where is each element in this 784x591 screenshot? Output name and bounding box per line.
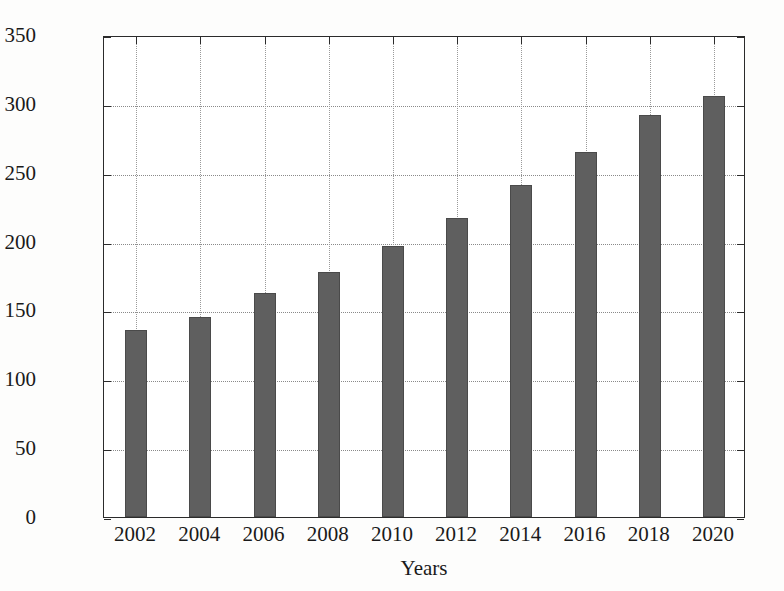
bar-2018[interactable]	[639, 115, 661, 517]
y-tick-label: 300	[0, 94, 36, 115]
bar-2008[interactable]	[318, 272, 340, 517]
y-tick-label: 150	[0, 300, 36, 321]
x-tick-mark	[521, 37, 522, 44]
y-tick-mark	[737, 312, 744, 313]
bar-2002[interactable]	[125, 330, 147, 517]
y-tick-label: 200	[0, 232, 36, 253]
y-tick-mark	[737, 106, 744, 107]
x-tick-mark	[200, 37, 201, 44]
x-tick-mark	[714, 37, 715, 44]
x-tick-mark	[265, 37, 266, 44]
y-tick-mark	[104, 37, 111, 38]
y-tick-label: 350	[0, 25, 36, 46]
bar-2010[interactable]	[382, 246, 404, 517]
plot-area	[103, 36, 745, 518]
bar-2020[interactable]	[703, 96, 725, 517]
y-tick-label: 250	[0, 163, 36, 184]
x-axis-title: Years	[103, 556, 745, 581]
y-tick-mark	[737, 519, 744, 520]
x-tick-mark	[393, 37, 394, 44]
x-tick-mark	[650, 37, 651, 44]
y-tick-label: 50	[0, 438, 36, 459]
y-tick-mark	[104, 450, 111, 451]
x-tick-mark	[136, 37, 137, 44]
bar-2012[interactable]	[446, 218, 468, 517]
bar-2004[interactable]	[189, 317, 211, 517]
y-tick-mark	[737, 450, 744, 451]
x-tick-mark	[329, 37, 330, 44]
y-tick-mark	[104, 244, 111, 245]
y-tick-mark	[104, 106, 111, 107]
y-tick-mark	[104, 519, 111, 520]
x-tick-mark	[586, 37, 587, 44]
y-tick-mark	[737, 244, 744, 245]
y-tick-label: 100	[0, 369, 36, 390]
bar-2014[interactable]	[510, 185, 532, 517]
bar-2016[interactable]	[575, 152, 597, 517]
x-tick-mark	[457, 37, 458, 44]
y-tick-mark	[737, 381, 744, 382]
y-tick-mark	[104, 312, 111, 313]
y-tick-label: 0	[0, 507, 36, 528]
bar-chart-figure: CO2e emissions (Mtons) 05010015020025030…	[0, 0, 784, 591]
y-tick-mark	[737, 175, 744, 176]
y-tick-mark	[104, 175, 111, 176]
bar-2006[interactable]	[254, 293, 276, 517]
y-tick-mark	[104, 381, 111, 382]
y-tick-mark	[737, 37, 744, 38]
x-tick-label: 2020	[673, 524, 753, 545]
